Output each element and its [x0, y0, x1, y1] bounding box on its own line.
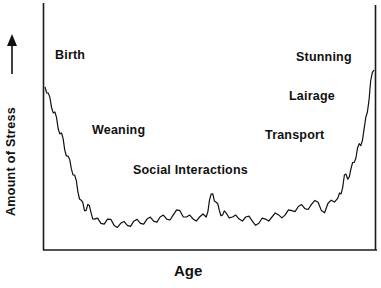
- annotation-lairage: Lairage: [289, 89, 335, 103]
- y-axis-label: Amount of Stress: [4, 107, 18, 216]
- up-arrow-icon: [7, 34, 17, 46]
- annotation-weaning: Weaning: [92, 123, 145, 137]
- annotation-stunning: Stunning: [296, 50, 352, 64]
- annotation-transport: Transport: [265, 128, 324, 142]
- x-axis-label: Age: [174, 262, 202, 279]
- annotation-social-interactions: Social Interactions: [133, 163, 248, 177]
- stress-chart: [0, 0, 381, 288]
- annotation-birth: Birth: [55, 48, 85, 62]
